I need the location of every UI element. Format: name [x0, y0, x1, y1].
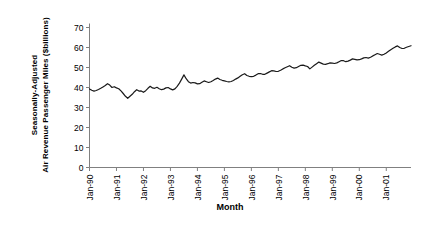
y-tick-label: 20: [74, 123, 84, 133]
y-tick-label: 60: [74, 43, 84, 53]
x-tick-label: Jan-90: [85, 174, 95, 200]
x-tick-label: Jan-99: [328, 174, 338, 200]
x-tick-label: Jan-97: [274, 174, 284, 200]
x-tick-label: Jan-98: [301, 174, 311, 200]
x-tick-label: Jan-01: [381, 174, 391, 200]
x-axis-label: Month: [160, 202, 300, 212]
x-tick-label: Jan-95: [220, 174, 230, 200]
x-tick-label: Jan-00: [354, 174, 364, 200]
y-tick-label: 40: [74, 83, 84, 93]
y-tick-label: 10: [74, 143, 84, 153]
x-tick-label: Jan-91: [112, 174, 122, 200]
y-axis: 010203040506070: [74, 23, 89, 173]
data-series-line: [90, 46, 412, 99]
y-tick-label: 70: [74, 23, 84, 33]
y-tick-label: 0: [79, 163, 84, 173]
x-tick-label: Jan-94: [193, 174, 203, 200]
chart-figure: Seasonally-Adjusted Air Revenue Passenge…: [0, 0, 426, 230]
series-line-air-revenue-passenger-miles: [90, 46, 412, 99]
chart-plot-area: 010203040506070 Jan-90Jan-91Jan-92Jan-93…: [0, 0, 426, 230]
x-tick-label: Jan-92: [139, 174, 149, 200]
x-tick-label: Jan-96: [247, 174, 257, 200]
x-axis: Jan-90Jan-91Jan-92Jan-93Jan-94Jan-95Jan-…: [85, 168, 411, 201]
y-tick-label: 50: [74, 63, 84, 73]
x-tick-label: Jan-93: [166, 174, 176, 200]
y-tick-label: 30: [74, 103, 84, 113]
